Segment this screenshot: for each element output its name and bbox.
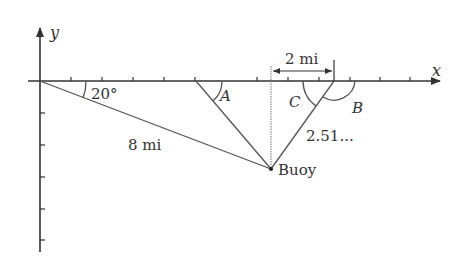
distance-8mi-label: 8 mi xyxy=(128,136,162,154)
angle-C-arc xyxy=(303,81,316,106)
angle-20-label: 20° xyxy=(91,85,118,103)
buoy-label: Buoy xyxy=(278,161,317,179)
x-axis: x xyxy=(28,61,441,81)
x-axis-label: x xyxy=(432,61,441,80)
angle-A-label: A xyxy=(218,87,231,105)
line-origin-to-buoy xyxy=(40,81,271,169)
angle-C-label: C xyxy=(289,93,301,111)
dimension-2mi: 2 mi xyxy=(273,50,334,81)
angle-B-label: B xyxy=(351,99,363,117)
buoy-point xyxy=(269,167,273,171)
line-A-to-buoy xyxy=(196,81,271,169)
y-axis: y xyxy=(40,23,60,252)
line-B-to-buoy xyxy=(271,81,334,169)
buoy-trig-diagram: x y 20° 8 mi A C B 2.51... 2 mi Buoy xyxy=(0,0,459,280)
distance-2mi-label: 2 mi xyxy=(285,50,319,68)
y-axis-label: y xyxy=(49,23,60,42)
angle-20-arc xyxy=(83,81,86,98)
distance-2-51-label: 2.51... xyxy=(306,127,354,145)
